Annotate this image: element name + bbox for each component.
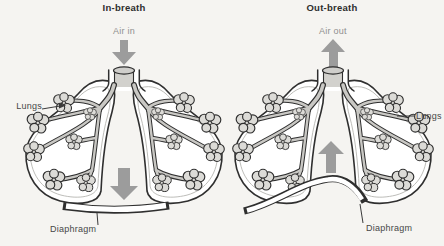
exhale-diaphragm-label: Diaphragm — [366, 223, 412, 234]
breathing-diagram: In-breath Air in Lungs Diaphragm Out-bre… — [0, 0, 444, 246]
air-out-label: Air out — [293, 26, 373, 37]
exhale-title: Out-breath — [272, 2, 392, 13]
exhale-lungs-graphic — [233, 67, 434, 203]
diaphragm-down-arrow-icon — [110, 168, 138, 200]
air-in-label: Air in — [84, 26, 164, 37]
exhale-lungs-label: Lungs — [416, 111, 442, 122]
air-out-arrow-icon — [321, 39, 345, 68]
exhale-diaphragm-pointer-line — [360, 204, 363, 223]
diagram-artwork — [0, 0, 444, 246]
inhale-diaphragm-pointer-line — [97, 213, 98, 225]
diaphragm-up-arrow-icon — [318, 141, 344, 173]
inhale-title: In-breath — [64, 2, 184, 13]
inhale-illustration — [24, 40, 225, 225]
inhale-lungs-label: Lungs — [4, 101, 42, 112]
exhale-illustration — [233, 39, 434, 223]
inhale-diaphragm-label: Diaphragm — [50, 224, 96, 235]
air-in-arrow-icon — [112, 40, 136, 65]
